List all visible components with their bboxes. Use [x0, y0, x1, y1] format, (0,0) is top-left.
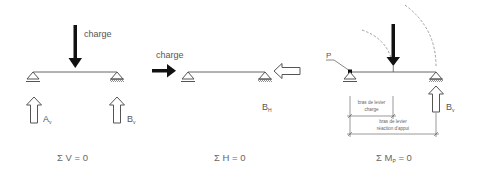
reaction-left-label: Av — [43, 114, 52, 125]
panel-moment-equilibrium: P Bv — [326, 5, 455, 164]
panel-vertical-equilibrium: charge Av Bv Σ V = 0 — [26, 25, 136, 163]
reaction-right-label: Bv — [127, 114, 136, 125]
reaction-arrow-up-icon — [429, 86, 444, 112]
roller-support-icon — [343, 72, 357, 82]
point-label: P — [326, 51, 331, 60]
reaction-arrow-up-icon — [110, 97, 125, 123]
load-arrow-down-icon — [69, 25, 83, 68]
load-label: charge — [84, 29, 112, 39]
point-leader — [326, 60, 350, 71]
roller-support-icon — [26, 72, 40, 82]
reaction-arrow-up-icon — [27, 97, 42, 123]
reaction-arrow-left-icon — [274, 64, 300, 79]
roller-support-icon — [181, 72, 195, 82]
dimension-load-label-line2: charge — [364, 107, 378, 112]
dimension-reaction-label-line2: réaction d'appui — [377, 126, 409, 131]
reaction-right-label: Bv — [446, 102, 455, 113]
moment-arc-load — [362, 30, 391, 58]
load-arrow-down-icon — [387, 24, 401, 72]
equation-label: Σ V = 0 — [57, 152, 88, 163]
pinned-support-icon — [429, 72, 443, 82]
moment-arc-reaction — [405, 5, 436, 66]
dimension-reaction-label-line1: bras de levier — [379, 119, 407, 124]
pinned-support-icon — [110, 72, 124, 82]
equation-label: Σ H = 0 — [214, 152, 245, 163]
reaction-right-label: BH — [262, 102, 272, 113]
panel-horizontal-equilibrium: charge BH Σ H = 0 — [152, 50, 300, 163]
equilibrium-diagram: charge Av Bv Σ V = 0 charge — [0, 0, 480, 178]
equation-label: Σ MP = 0 — [376, 152, 412, 164]
dimension-load-label-line1: bras de levier — [358, 100, 386, 105]
pinned-support-icon — [258, 72, 272, 82]
load-label: charge — [156, 50, 184, 60]
load-arrow-right-icon — [152, 64, 176, 78]
